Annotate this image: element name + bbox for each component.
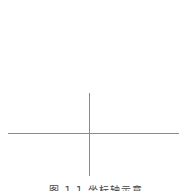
figure-caption: 图 1.1 坐标轴示意: [0, 185, 192, 191]
vertical-axis-line: [89, 93, 90, 176]
horizontal-axis-line: [8, 133, 179, 134]
axes-diagram: [0, 0, 192, 191]
